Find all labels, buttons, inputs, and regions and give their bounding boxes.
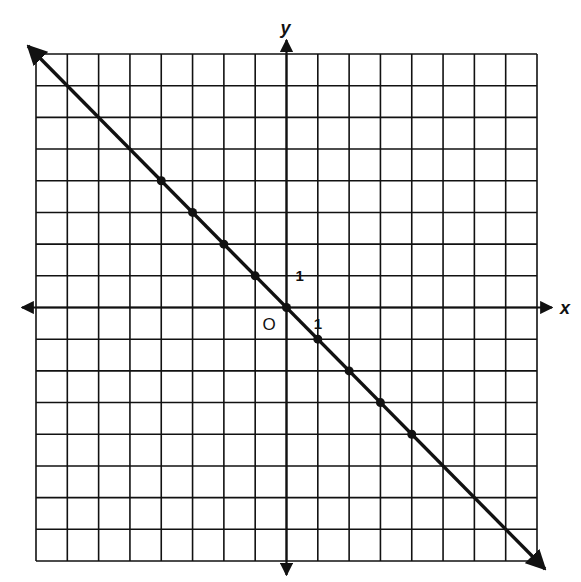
data-point xyxy=(376,398,385,407)
origin-label: O xyxy=(263,315,276,334)
coordinate-plane: x y O 1 1 xyxy=(0,0,581,582)
y-tick-label: 1 xyxy=(296,267,304,284)
data-point xyxy=(345,366,354,375)
data-point xyxy=(407,430,416,439)
data-point xyxy=(282,303,291,312)
data-point xyxy=(251,271,260,280)
data-point xyxy=(219,240,228,249)
data-point xyxy=(313,335,322,344)
y-axis-label: y xyxy=(280,18,292,38)
x-tick-label: 1 xyxy=(314,315,322,332)
x-axis-label: x xyxy=(559,298,571,318)
data-point xyxy=(157,176,166,185)
data-point xyxy=(188,208,197,217)
